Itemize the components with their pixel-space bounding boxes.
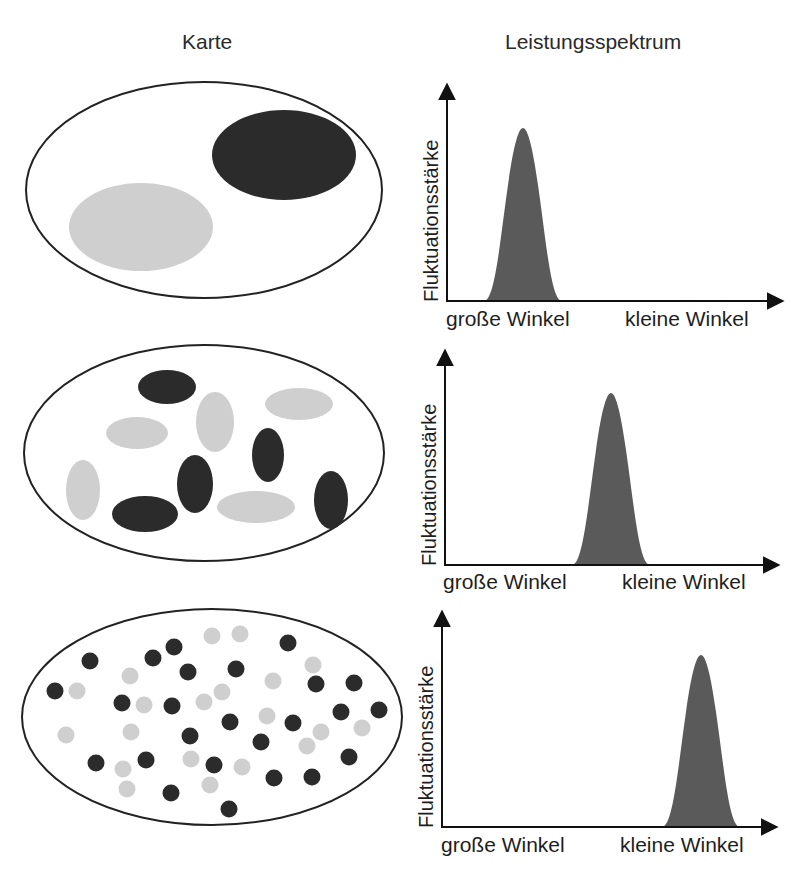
y-axis-label: Fluktuationsstärke (418, 404, 440, 566)
dark-spot (314, 471, 348, 529)
spectrum-chart-1: Fluktuationsstärke große Winkel kleine W… (420, 86, 781, 330)
spectrum-peak (572, 393, 650, 565)
light-spot (66, 460, 100, 520)
dark-spot (138, 370, 196, 404)
light-spot (265, 388, 333, 420)
dark-spot (177, 455, 213, 513)
diagram-canvas: Fluktuationsstärke große Winkel kleine W… (0, 0, 807, 881)
y-axis-label: Fluktuationsstärke (415, 666, 437, 828)
light-spot (69, 183, 213, 271)
map-small-dots (22, 609, 402, 825)
y-axis-label: Fluktuationsstärke (420, 140, 442, 302)
x-label-right: kleine Winkel (620, 833, 744, 856)
spectrum-chart-3: Fluktuationsstärke große Winkel kleine W… (415, 613, 775, 856)
x-label-left: große Winkel (441, 833, 565, 856)
x-label-left: große Winkel (446, 307, 570, 330)
dark-dots (47, 635, 388, 818)
dark-spot (212, 110, 356, 200)
x-label-left: große Winkel (443, 570, 567, 593)
light-spot (106, 417, 168, 449)
spectrum-chart-2: Fluktuationsstärke große Winkel kleine W… (418, 352, 777, 593)
x-label-right: kleine Winkel (625, 307, 749, 330)
light-spot (196, 392, 234, 452)
map-large-spots (26, 82, 382, 298)
spectrum-peak (662, 655, 740, 827)
map-medium-spots (24, 345, 384, 561)
dark-spot (112, 496, 178, 532)
light-spot (217, 491, 295, 523)
x-label-right: kleine Winkel (622, 570, 746, 593)
spectrum-peak (484, 128, 562, 301)
dark-spot (252, 428, 284, 482)
